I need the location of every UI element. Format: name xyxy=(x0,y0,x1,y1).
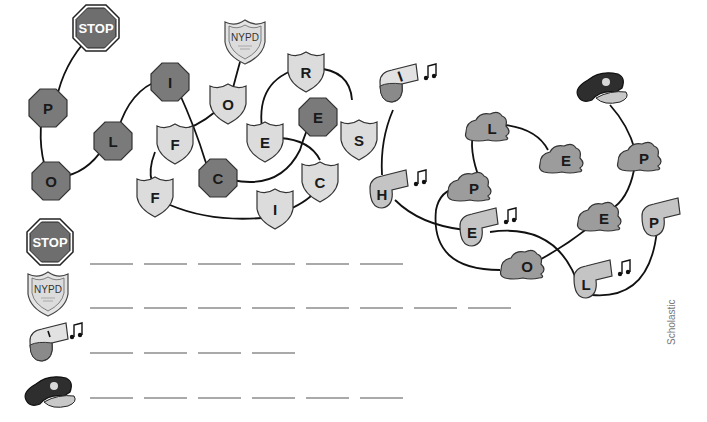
answer-row-nypd: NYPD xyxy=(28,272,511,316)
svg-text:O: O xyxy=(521,258,533,275)
badge-letter-o: O xyxy=(210,84,246,124)
svg-text:R: R xyxy=(301,64,312,81)
stop-sign-icon: STOP xyxy=(27,219,73,265)
nypd-badge-start: NYPD xyxy=(225,20,265,64)
patch-letter-e-1: E xyxy=(578,202,622,231)
patch-letter-e-2: E xyxy=(540,144,584,173)
svg-text:P: P xyxy=(649,214,659,231)
music-note-icon xyxy=(618,260,630,276)
patch-letter-p-1: P xyxy=(618,142,662,171)
svg-text:F: F xyxy=(150,189,159,206)
publisher-credit: Scholastic xyxy=(666,299,677,345)
music-note-icon xyxy=(70,323,82,339)
music-note-icon xyxy=(424,64,436,80)
svg-text:E: E xyxy=(260,134,270,151)
stop-sign-start: STOP xyxy=(73,5,119,51)
svg-text:O: O xyxy=(222,96,234,113)
svg-text:E: E xyxy=(467,224,477,241)
patch-letter-l: L xyxy=(466,112,510,141)
octagon-letter-i: I xyxy=(151,63,189,101)
svg-text:I: I xyxy=(273,201,277,218)
badge-letter-f-2: F xyxy=(137,177,173,217)
police-cap-icon xyxy=(25,377,75,407)
octagon-letter-o: O xyxy=(32,162,70,200)
svg-text:I: I xyxy=(168,74,172,91)
svg-text:S: S xyxy=(354,132,364,149)
svg-text:P: P xyxy=(43,100,53,117)
svg-text:NYPD: NYPD xyxy=(34,284,62,295)
octagon-letter-e: E xyxy=(299,98,337,136)
svg-text:C: C xyxy=(213,170,224,187)
badge-letter-r: R xyxy=(288,52,324,92)
patch-letter-p-2: P xyxy=(448,172,492,201)
nypd-badge-icon: NYPD xyxy=(28,272,68,316)
whistle-icon xyxy=(30,323,82,361)
badge-letter-f-1: F xyxy=(157,124,193,164)
svg-text:C: C xyxy=(315,174,326,191)
svg-text:O: O xyxy=(45,173,57,190)
octagon-letter-l: L xyxy=(94,122,132,160)
police-cap-start xyxy=(577,73,627,103)
svg-text:E: E xyxy=(561,152,571,169)
badge-letter-s: S xyxy=(341,120,377,160)
svg-text:NYPD: NYPD xyxy=(231,32,259,43)
svg-text:E: E xyxy=(599,210,609,227)
svg-text:P: P xyxy=(639,150,649,167)
svg-text:F: F xyxy=(170,136,179,153)
music-note-icon xyxy=(504,208,516,224)
badge-letter-c: C xyxy=(302,162,338,202)
octagon-letter-p: P xyxy=(29,89,67,127)
octagon-letter-c: C xyxy=(199,159,237,197)
svg-text:P: P xyxy=(469,180,479,197)
svg-text:H: H xyxy=(377,186,388,203)
svg-text:L: L xyxy=(487,120,496,137)
badge-letter-e: E xyxy=(247,122,283,162)
svg-text:L: L xyxy=(108,133,117,150)
answer-row-cap xyxy=(25,377,403,407)
answer-row-stop: STOP xyxy=(27,219,403,265)
whistle-letter-p: P xyxy=(642,198,680,236)
svg-text:STOP: STOP xyxy=(32,235,67,250)
patch-letter-o: O xyxy=(501,250,545,279)
badge-letter-i: I xyxy=(257,189,293,229)
svg-text:L: L xyxy=(581,276,590,293)
svg-text:STOP: STOP xyxy=(78,21,113,36)
answer-row-whistle xyxy=(30,323,295,361)
svg-text:E: E xyxy=(313,109,323,126)
whistle-start: I xyxy=(380,64,436,102)
whistle-letter-e: E xyxy=(460,208,516,246)
music-note-icon xyxy=(414,170,426,186)
